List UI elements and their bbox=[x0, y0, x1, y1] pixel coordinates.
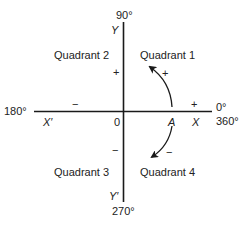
x-negative-sign: − bbox=[72, 98, 78, 110]
angle-180-label: 180° bbox=[4, 105, 27, 117]
angle-360-label: 360° bbox=[216, 115, 239, 127]
quadrant-diagram: 90° 180° 0° 360° 270° Y Y′ X′ X 0 A Quad… bbox=[0, 0, 248, 228]
x-positive-sign: + bbox=[191, 98, 197, 110]
angle-0-label: 0° bbox=[216, 101, 227, 113]
angle-90-label: 90° bbox=[116, 9, 133, 21]
quadrant-1-label: Quadrant 1 bbox=[140, 49, 195, 61]
origin-label: 0 bbox=[114, 116, 120, 128]
quadrant-4-label: Quadrant 4 bbox=[140, 166, 195, 178]
y-prime-axis-label: Y′ bbox=[109, 190, 118, 202]
angle-270-label: 270° bbox=[112, 205, 135, 217]
y-negative-sign: − bbox=[112, 144, 118, 156]
point-a-label: A bbox=[168, 116, 175, 128]
cw-rotation-sign: − bbox=[166, 146, 172, 158]
ccw-arrow-icon bbox=[150, 67, 172, 107]
y-axis-label: Y bbox=[111, 24, 118, 36]
ccw-rotation-sign: + bbox=[162, 67, 168, 79]
quadrant-3-label: Quadrant 3 bbox=[54, 166, 109, 178]
x-axis-label: X bbox=[192, 116, 199, 128]
quadrant-2-label: Quadrant 2 bbox=[54, 49, 109, 61]
x-prime-axis-label: X′ bbox=[43, 116, 52, 128]
axes-and-arrows bbox=[0, 0, 248, 228]
y-positive-sign: + bbox=[113, 66, 119, 78]
